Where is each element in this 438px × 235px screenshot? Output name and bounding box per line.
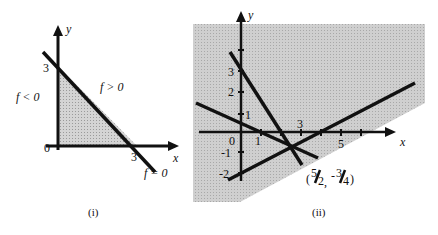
y-tick-2-label: 2 [228,85,234,99]
feasible-region-shade [58,66,137,146]
figure-canvas: y x 3 3 0 f < 0 f > 0 f = 0 (i) [0,0,438,235]
x-tick-1-label: 1 [255,134,261,148]
caption-ii: (ii) [312,206,326,219]
svg-text:,: , [324,175,327,189]
origin-label: 0 [44,141,50,155]
y-tick-1-label: 1 [245,108,251,122]
figure-i: y x 3 3 0 f < 0 f > 0 f = 0 (i) [16,22,179,219]
line-label: f = 0 [144,166,167,180]
figure-ii: y x 0 1 3 5 1 2 3 -1 -2 ( 5 2 , - 3 4 ) … [193,8,425,219]
region-negative-label: f < 0 [16,90,39,104]
svg-text:-: - [331,169,335,183]
svg-text:): ) [350,172,354,186]
y-axis-arrow-icon [236,11,246,22]
y-tick-neg2-label: -2 [219,167,229,181]
y-axis-label: y [65,22,72,36]
y-tick-3-label: 3 [228,65,234,79]
svg-text:4: 4 [343,174,349,188]
caption-i: (i) [88,206,99,219]
intersection-label: ( 5 2 , - 3 4 ) [306,166,354,189]
y-axis-label: y [247,8,254,22]
x-axis-arrow-icon [385,127,396,137]
x-intercept-label: 3 [131,150,137,164]
x-axis-label: x [172,151,179,165]
x-tick-3-label: 3 [297,117,303,131]
y-axis-arrow-icon [53,25,63,36]
x-axis-arrow-icon [168,141,179,151]
y-intercept-label: 3 [43,61,49,75]
x-tick-5-label: 5 [338,137,344,151]
region-positive-label: f > 0 [100,80,123,94]
x-axis-label: x [399,135,406,149]
y-tick-neg1-label: -1 [221,146,231,160]
svg-text:(: ( [306,172,310,186]
